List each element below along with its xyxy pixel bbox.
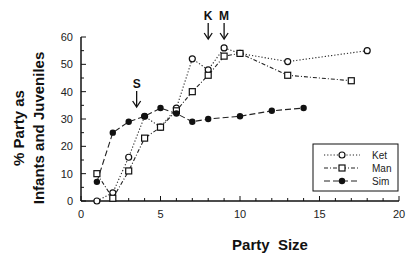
legend-label: Man [372, 163, 391, 174]
data-point-sim [189, 119, 195, 125]
annotation-label: M [219, 9, 229, 23]
chart: 051015200102030405060 SKM % Party as Inf… [0, 0, 413, 261]
data-point-sim [300, 105, 306, 111]
data-point-man [189, 89, 195, 95]
y-tick-label: 0 [67, 195, 73, 207]
data-point-man [348, 78, 354, 84]
y-axis-title-line1: % Party as [10, 90, 27, 166]
y-tick-label: 10 [61, 168, 73, 180]
annotations: SKM [133, 9, 229, 107]
data-point-sim [173, 110, 179, 116]
annotation-s: S [133, 77, 141, 107]
data-point-man [158, 124, 164, 130]
y-axis-title-line2: Infants and Juveniles [30, 52, 47, 205]
data-point-ket [94, 198, 100, 204]
data-point-sim [237, 113, 243, 119]
data-point-man [142, 135, 148, 141]
data-point-man [205, 72, 211, 78]
data-point-sim [339, 178, 345, 184]
annotation-label: S [133, 77, 141, 91]
x-axis-title: Party Size [232, 236, 308, 253]
data-point-ket [285, 59, 291, 65]
annotation-m: M [219, 9, 229, 39]
data-point-ket [189, 56, 195, 62]
x-tick-label: 0 [78, 208, 84, 220]
x-tick-label: 5 [157, 208, 163, 220]
data-point-man [339, 165, 345, 171]
y-tick-label: 30 [61, 113, 73, 125]
data-point-man [110, 195, 116, 201]
annotation-k: K [204, 9, 213, 39]
data-point-sim [94, 179, 100, 185]
data-point-man [94, 171, 100, 177]
data-point-man [221, 53, 227, 59]
data-point-sim [157, 105, 163, 111]
y-tick-label: 60 [61, 31, 73, 43]
data-point-ket [221, 45, 227, 51]
data-point-man [285, 72, 291, 78]
x-tick-label: 15 [313, 208, 325, 220]
data-point-ket [339, 152, 345, 158]
y-tick-label: 50 [61, 58, 73, 70]
data-point-man [126, 168, 132, 174]
data-point-man [237, 50, 243, 56]
data-point-sim [141, 113, 147, 119]
data-point-sim [205, 116, 211, 122]
data-point-ket [126, 154, 132, 160]
x-tick-label: 10 [234, 208, 246, 220]
data-point-sim [269, 108, 275, 114]
legend-label: Sim [372, 176, 389, 187]
legend-label: Ket [372, 150, 387, 161]
legend: KetManSim [313, 144, 398, 191]
x-tick-label: 20 [393, 208, 405, 220]
y-tick-label: 20 [61, 140, 73, 152]
annotation-label: K [204, 9, 213, 23]
data-point-sim [126, 119, 132, 125]
data-point-ket [364, 48, 370, 54]
y-tick-label: 40 [61, 86, 73, 98]
data-point-sim [110, 129, 116, 135]
